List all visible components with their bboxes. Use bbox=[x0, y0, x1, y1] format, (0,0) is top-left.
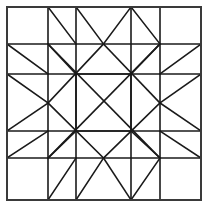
figure-background bbox=[0, 0, 209, 207]
quilt-pattern-svg bbox=[0, 0, 209, 207]
quilt-figure bbox=[0, 0, 209, 207]
